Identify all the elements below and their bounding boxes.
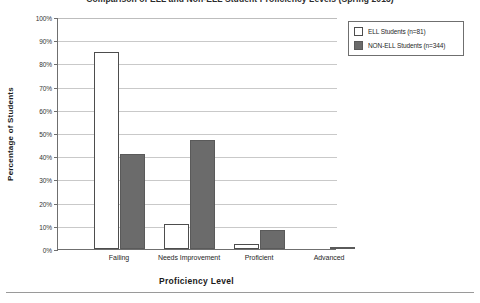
ytick-label-40: 40% bbox=[39, 154, 52, 161]
x-category-label-failing: Failing bbox=[109, 254, 129, 261]
x-category-label-needs-improvement: Needs Improvement bbox=[158, 254, 220, 261]
ytick-label-0: 0% bbox=[43, 247, 52, 254]
ytick-label-20: 20% bbox=[39, 200, 52, 207]
ytick-label-50: 50% bbox=[39, 131, 52, 138]
bar-group-needs-improvement bbox=[164, 18, 216, 249]
ytick-label-10: 10% bbox=[39, 223, 52, 230]
ytick-10 bbox=[54, 227, 58, 228]
ytick-30 bbox=[54, 180, 58, 181]
x-category-label-proficient: Proficient bbox=[245, 254, 274, 261]
legend-label-ell: ELL Students (n=81) bbox=[368, 28, 426, 35]
bar-ell-proficient[interactable] bbox=[234, 244, 259, 249]
chart-title-clipped: Comparison of ELL and Non-ELL Student Pr… bbox=[0, 0, 480, 4]
ytick-0 bbox=[54, 250, 58, 251]
ytick-90 bbox=[54, 41, 58, 42]
legend-item-ell[interactable]: ELL Students (n=81) bbox=[354, 26, 458, 37]
legend-item-nonell[interactable]: NON-ELL Students (n=344) bbox=[354, 40, 458, 51]
ytick-60 bbox=[54, 111, 58, 112]
bar-group-proficient bbox=[234, 18, 286, 249]
y-axis-title: Percentage of Students bbox=[6, 87, 15, 181]
ytick-label-90: 90% bbox=[39, 38, 52, 45]
ytick-label-30: 30% bbox=[39, 177, 52, 184]
bar-nonell-advanced[interactable] bbox=[330, 247, 355, 249]
ytick-70 bbox=[54, 88, 58, 89]
bar-nonell-needs-improvement[interactable] bbox=[190, 140, 215, 249]
bar-nonell-failing[interactable] bbox=[120, 154, 145, 249]
bar-group-failing bbox=[94, 18, 146, 249]
ytick-label-80: 80% bbox=[39, 61, 52, 68]
chart-figure: Comparison of ELL and Non-ELL Student Pr… bbox=[0, 0, 480, 303]
plot-area: 100% 90% 80% 70% 60% 50% 40% 30% 20% 10%… bbox=[57, 18, 336, 250]
x-category-label-advanced: Advanced bbox=[314, 254, 345, 261]
x-axis-title: Proficiency Level bbox=[57, 276, 336, 286]
ytick-label-70: 70% bbox=[39, 84, 52, 91]
ytick-40 bbox=[54, 157, 58, 158]
ytick-label-100: 100% bbox=[36, 15, 52, 22]
footer-divider bbox=[6, 292, 474, 293]
white-square-swatch-icon bbox=[354, 27, 363, 36]
bar-ell-failing[interactable] bbox=[94, 52, 119, 249]
ytick-100 bbox=[54, 18, 58, 19]
ytick-20 bbox=[54, 204, 58, 205]
chart-legend: ELL Students (n=81) NON-ELL Students (n=… bbox=[348, 21, 464, 56]
gray-square-swatch-icon bbox=[354, 41, 363, 50]
ytick-50 bbox=[54, 134, 58, 135]
ytick-80 bbox=[54, 64, 58, 65]
ytick-label-60: 60% bbox=[39, 107, 52, 114]
bar-nonell-proficient[interactable] bbox=[260, 230, 285, 249]
bar-ell-needs-improvement[interactable] bbox=[164, 224, 189, 250]
legend-label-nonell: NON-ELL Students (n=344) bbox=[368, 42, 445, 49]
chart-title-text: Comparison of ELL and Non-ELL Student Pr… bbox=[0, 0, 480, 4]
